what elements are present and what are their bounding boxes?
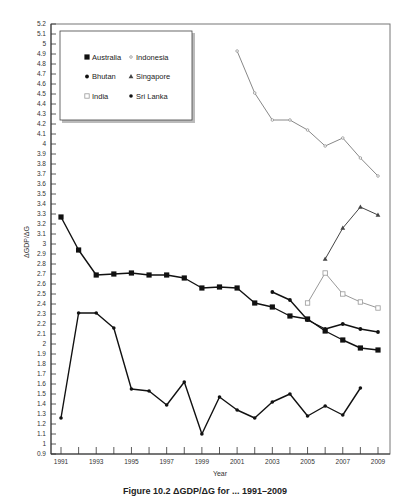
x-tick-label: 1991 xyxy=(54,458,69,465)
x-tick-label: 1995 xyxy=(124,458,139,465)
series-singapore xyxy=(323,204,381,260)
series-bhutan xyxy=(270,290,379,334)
y-tick-label: 1.9 xyxy=(37,350,46,357)
y-tick-label: 4.4 xyxy=(37,100,46,107)
figure-caption: Figure 10.2 ΔGDP/ΔG for ... 1991–2009 xyxy=(0,486,410,496)
y-tick-label: 4.6 xyxy=(37,80,46,87)
y-tick-label: 3.6 xyxy=(37,180,46,187)
y-tick-label: 3.2 xyxy=(37,220,46,227)
y-tick-label: 3.3 xyxy=(37,210,46,217)
x-tick-label: 2009 xyxy=(371,458,386,465)
y-tick-label: 3.9 xyxy=(37,150,46,157)
series-indonesia xyxy=(236,50,379,178)
legend-label: Sri Lanka xyxy=(136,92,169,101)
y-tick-label: 4.8 xyxy=(37,60,46,67)
y-tick-label: 2.7 xyxy=(37,270,46,277)
x-tick-label: 1997 xyxy=(159,458,174,465)
legend-label: Australia xyxy=(92,53,122,62)
series-india xyxy=(305,271,380,310)
y-tick-label: 3.1 xyxy=(37,230,46,237)
legend-label: Bhutan xyxy=(92,72,116,81)
x-axis: 1991199319951997199920012003200520072009 xyxy=(54,447,386,465)
y-tick-label: 1.1 xyxy=(37,430,46,437)
y-tick-label: 3.7 xyxy=(37,170,46,177)
y-tick-label: 3.8 xyxy=(37,160,46,167)
y-tick-label: 2.8 xyxy=(37,260,46,267)
line-chart: 0.911.11.21.31.41.51.61.71.81.922.12.22.… xyxy=(0,0,410,496)
series-sri-lanka xyxy=(59,311,362,436)
y-tick-label: 5 xyxy=(42,40,46,47)
y-tick-label: 3.5 xyxy=(37,190,46,197)
y-tick-label: 4.2 xyxy=(37,120,46,127)
legend-label: India xyxy=(92,92,109,101)
y-axis: 0.911.11.21.31.41.51.61.71.81.922.12.22.… xyxy=(37,20,56,457)
y-tick-label: 1.6 xyxy=(37,380,46,387)
y-tick-label: 2.4 xyxy=(37,300,46,307)
y-tick-label: 1.5 xyxy=(37,390,46,397)
y-tick-label: 4.9 xyxy=(37,50,46,57)
y-tick-label: 3.4 xyxy=(37,200,46,207)
x-tick-label: 2007 xyxy=(336,458,351,465)
series-australia xyxy=(58,214,380,352)
x-tick-label: 2005 xyxy=(300,458,315,465)
legend-item-indonesia: Indonesia xyxy=(130,53,170,62)
x-tick-label: 2003 xyxy=(265,458,280,465)
legend-item-sri-lanka: Sri Lanka xyxy=(129,92,168,101)
y-tick-label: 2.1 xyxy=(37,330,46,337)
y-tick-label: 1 xyxy=(42,440,46,447)
x-axis-title: Year xyxy=(213,470,228,477)
x-tick-label: 2001 xyxy=(230,458,245,465)
y-tick-label: 2 xyxy=(42,340,46,347)
y-tick-label: 4.7 xyxy=(37,70,46,77)
y-tick-label: 1.2 xyxy=(37,420,46,427)
y-tick-label: 5.1 xyxy=(37,30,46,37)
x-tick-label: 1993 xyxy=(89,458,104,465)
x-tick-label: 1999 xyxy=(195,458,210,465)
y-tick-label: 2.2 xyxy=(37,320,46,327)
y-tick-label: 1.3 xyxy=(37,410,46,417)
y-tick-label: 2.9 xyxy=(37,250,46,257)
y-tick-label: 3 xyxy=(42,240,46,247)
y-tick-label: 1.7 xyxy=(37,370,46,377)
legend-label: Singapore xyxy=(136,72,170,81)
y-tick-label: 1.8 xyxy=(37,360,46,367)
y-tick-label: 2.5 xyxy=(37,290,46,297)
y-tick-label: 4.1 xyxy=(37,130,46,137)
y-tick-label: 4.3 xyxy=(37,110,46,117)
y-axis-title: ΔGDP/ΔG xyxy=(23,226,30,258)
y-tick-label: 4 xyxy=(42,140,46,147)
y-tick-label: 0.9 xyxy=(37,450,46,457)
y-tick-label: 2.3 xyxy=(37,310,46,317)
y-tick-label: 1.4 xyxy=(37,400,46,407)
legend: AustraliaIndonesiaBhutanSingaporeIndiaSr… xyxy=(60,31,195,123)
y-tick-label: 4.5 xyxy=(37,90,46,97)
y-tick-label: 2.6 xyxy=(37,280,46,287)
y-tick-label: 5.2 xyxy=(37,20,46,27)
legend-label: Indonesia xyxy=(136,53,169,62)
